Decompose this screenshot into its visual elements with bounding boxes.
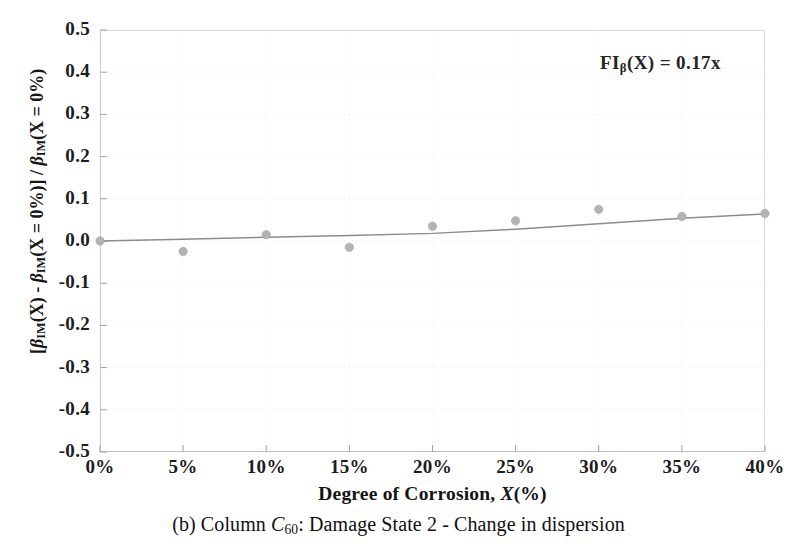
x-tick-label: 25%	[481, 456, 551, 478]
y-tick-label: 0.2	[65, 145, 90, 167]
x-tick-label: 20%	[398, 456, 468, 478]
equation-annotation: FIβ(X) = 0.17x	[600, 52, 721, 76]
annotation-subscript: β	[620, 60, 627, 75]
x-tick-label: 35%	[647, 456, 717, 478]
x-tick-label: 30%	[564, 456, 634, 478]
y-tick-label: -0.3	[59, 356, 90, 378]
y-tick-label: 0.5	[65, 18, 90, 40]
x-axis-title: Degree of Corrosion, X(%)	[100, 483, 765, 505]
annotation-prefix: FI	[600, 52, 620, 73]
x-axis-title-unit: (%)	[514, 483, 547, 504]
y-tick-label: -0.1	[59, 271, 90, 293]
caption-symbol: C	[271, 513, 284, 535]
x-axis-title-main: Degree of Corrosion,	[318, 483, 500, 504]
y-tick-label: 0.0	[65, 229, 90, 251]
figure-container: 0.50.40.30.20.10.0-0.1-0.2-0.3-0.4-0.5 0…	[0, 0, 797, 546]
y-tick-label: -0.2	[59, 313, 90, 335]
annotation-suffix: (X) = 0.17x	[627, 52, 721, 73]
y-tick-label: -0.4	[59, 398, 90, 420]
x-tick-label: 40%	[730, 456, 797, 478]
y-axis-title-text: [βIM(X) - βIM(X = 0%)] / βIM(X = 0%)	[27, 69, 47, 354]
y-axis-title: [βIM(X) - βIM(X = 0%)] / βIM(X = 0%)	[27, 0, 50, 431]
x-tick-label: 10%	[231, 456, 301, 478]
x-tick-label: 0%	[65, 456, 135, 478]
figure-caption: (b) Column C60: Damage State 2 - Change …	[0, 513, 797, 538]
x-tick-label: 15%	[314, 456, 384, 478]
plot-area	[100, 30, 765, 452]
y-tick-label: 0.3	[65, 102, 90, 124]
x-axis-title-variable: X	[500, 483, 513, 504]
caption-symbol-subscript: 60	[284, 522, 298, 537]
caption-suffix: : Damage State 2 - Change in dispersion	[298, 513, 625, 535]
y-tick-label: 0.4	[65, 60, 90, 82]
x-tick-label: 5%	[148, 456, 218, 478]
caption-prefix: (b) Column	[172, 513, 271, 535]
y-tick-label: 0.1	[65, 187, 90, 209]
